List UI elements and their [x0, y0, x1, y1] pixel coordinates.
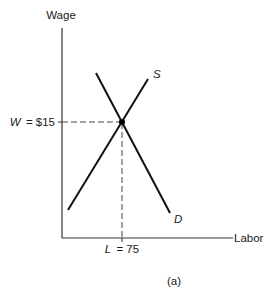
demand-label: D — [174, 213, 182, 225]
supply-demand-chart: Wage Labor S D W = $15 L = 75 (a) — [0, 0, 278, 296]
y-axis-label: Wage — [46, 9, 76, 21]
supply-curve — [68, 79, 148, 210]
panel-label: (a) — [167, 275, 181, 287]
labor-value: = 75 — [116, 243, 139, 255]
equilibrium-point — [119, 119, 125, 125]
wage-variable: W — [10, 116, 22, 128]
supply-label: S — [153, 68, 161, 80]
labor-variable: L — [105, 243, 111, 255]
equilibrium-wage-label: W = $15 — [10, 116, 55, 128]
wage-value: = $15 — [26, 116, 55, 128]
x-axis-label: Labor — [234, 232, 264, 244]
demand-curve — [96, 73, 170, 213]
equilibrium-labor-label: L = 75 — [105, 243, 139, 255]
